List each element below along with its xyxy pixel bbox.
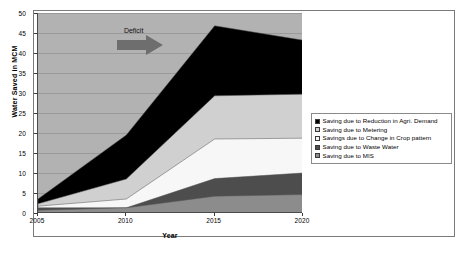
deficit-annotation-label: Deficit <box>124 27 143 34</box>
x-tick-mark <box>302 213 303 216</box>
legend-swatch <box>315 119 320 124</box>
plot-area <box>37 13 302 213</box>
legend-label: Saving due to Metering <box>323 126 388 134</box>
y-tick-label: 0 <box>0 210 26 217</box>
right-arrow-icon <box>117 35 164 59</box>
x-tick-mark <box>214 213 215 216</box>
x-tick-mark <box>125 213 126 216</box>
legend-swatch <box>315 127 320 132</box>
x-axis-title: Year <box>115 232 225 239</box>
x-tick-label: 2015 <box>199 217 229 224</box>
legend-label: Saving due to MIS <box>323 152 374 160</box>
y-tick-label: 15 <box>0 150 26 157</box>
y-tick-label: 45 <box>0 30 26 37</box>
legend-item[interactable]: Saving due to Waste Water <box>315 143 449 152</box>
y-tick-label: 25 <box>0 110 26 117</box>
legend-label: Saving due to Reduction in Agri. Demand <box>323 117 438 125</box>
chart-legend: Saving due to Reduction in Agri. DemandS… <box>311 113 452 164</box>
stacked-area-series <box>38 13 302 212</box>
x-tick-label: 2005 <box>22 217 52 224</box>
y-tick-label: 40 <box>0 50 26 57</box>
y-tick-label: 35 <box>0 70 26 77</box>
y-tick-label: 20 <box>0 130 26 137</box>
y-tick-label: 10 <box>0 170 26 177</box>
legend-swatch <box>315 145 320 150</box>
y-tick-label: 30 <box>0 90 26 97</box>
x-tick-label: 2020 <box>287 217 317 224</box>
legend-item[interactable]: Saving due to MIS <box>315 151 449 160</box>
legend-label: Savings due to Change in Crop pattern <box>323 134 432 142</box>
legend-item[interactable]: Savings due to Change in Crop pattern <box>315 134 449 143</box>
legend-swatch <box>315 153 320 158</box>
x-tick-mark <box>37 213 38 216</box>
y-tick-label: 50 <box>0 10 26 17</box>
legend-item[interactable]: Saving due to Reduction in Agri. Demand <box>315 117 449 126</box>
legend-swatch <box>315 136 320 141</box>
chart-screenshot: Water Saved in MCM 05101520253035404550 … <box>0 0 456 253</box>
legend-label: Saving due to Waste Water <box>323 143 399 151</box>
plot-inner <box>38 13 302 212</box>
x-tick-label: 2010 <box>110 217 140 224</box>
legend-item[interactable]: Saving due to Metering <box>315 126 449 135</box>
y-tick-label: 5 <box>0 190 26 197</box>
